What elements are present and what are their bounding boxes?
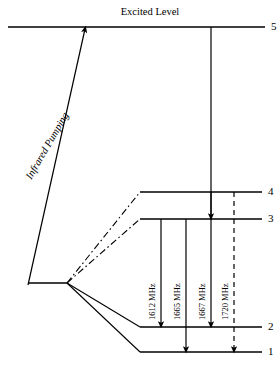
fan-branch-to-level-1 (67, 283, 140, 352)
level-number-2: 2 (268, 321, 274, 332)
fan-branch-to-level-3 (67, 219, 140, 283)
diagram-canvas (0, 0, 279, 373)
fan-branch-group (67, 192, 140, 352)
transition-1667-label: 1667 MHz (197, 283, 207, 320)
transition-1612-label: 1612 MHz (147, 283, 157, 320)
excited-level-label: Excited Level (121, 6, 180, 17)
level-number-3: 3 (268, 213, 274, 224)
fan-branch-to-level-2 (67, 283, 140, 327)
level-number-5: 5 (271, 21, 277, 32)
energy-level-diagram: Excited Level Infrared Pumping 54321 161… (0, 0, 279, 373)
transition-1665-label: 1665 MHz (172, 283, 182, 320)
level-number-1: 1 (268, 346, 274, 357)
transition-1720-label: 1720 MHz (220, 283, 230, 320)
level-number-4: 4 (268, 186, 274, 197)
fan-branch-to-level-4 (67, 192, 140, 283)
